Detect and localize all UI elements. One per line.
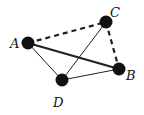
edge-c-b	[106, 22, 119, 69]
node-label-c: C	[110, 5, 120, 20]
nodes-layer	[22, 16, 126, 87]
node-label-a: A	[9, 36, 19, 51]
node-label-b: B	[125, 68, 136, 83]
edge-a-c	[28, 22, 106, 43]
edges-layer	[28, 22, 119, 80]
graph-diagram: ABCD	[0, 0, 144, 115]
node-label-d: D	[52, 95, 64, 110]
node-a	[22, 37, 35, 50]
node-b	[113, 63, 126, 76]
node-d	[56, 74, 69, 87]
edge-d-b	[62, 69, 119, 80]
edge-c-d	[62, 22, 106, 80]
